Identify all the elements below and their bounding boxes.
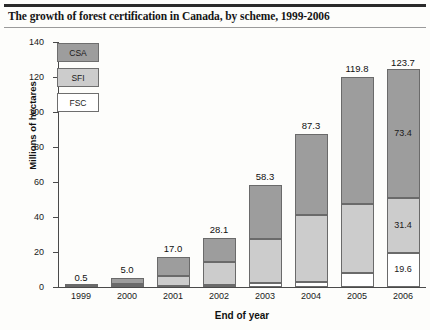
title-underline [4,27,426,28]
bar-segment-2006-sfi: 31.4 [387,198,420,253]
bar-segment-2000-sfi [111,284,144,286]
bar-segment-2002-fsc [203,285,236,287]
bar-segment-value: 19.6 [394,265,412,274]
chart-figure: The growth of forest certification in Ca… [0,0,430,330]
x-axis-tick-label-2000: 2000 [104,291,150,301]
x-axis-tick-label-2003: 2003 [242,291,288,301]
chart-title: The growth of forest certification in Ca… [8,10,424,22]
bar-segment-2002-csa [203,238,236,262]
bar-segment-value: 73.4 [394,129,412,138]
bar-segment-1999-csa [65,284,98,286]
bar-total-label-2006: 123.7 [391,57,415,68]
bar-segment-2004-fsc [295,282,328,287]
bar-segment-2005-csa [341,77,374,204]
x-axis-tick-label-2005: 2005 [334,291,380,301]
bar-segment-2005-fsc [341,273,374,287]
x-axis-tick-label-2002: 2002 [196,291,242,301]
bar-2003: 58.3 [249,185,282,287]
legend-item-sfi: SFI [57,68,99,87]
bar-segment-2001-csa [157,257,190,276]
x-axis-tick-label-2001: 2001 [150,291,196,301]
bar-total-label-2000: 5.0 [120,264,133,275]
bar-segment-2003-sfi [249,239,282,284]
bar-segment-2004-sfi [295,215,328,282]
x-axis-label: End of year [58,310,426,321]
bar-2005: 119.8 [341,77,374,287]
bar-segment-2005-sfi [341,204,374,273]
x-axis-line [58,287,426,288]
bar-series-area: 0.55.017.028.158.387.3119.819.631.473.41… [58,42,426,287]
bar-total-label-2002: 28.1 [210,224,229,235]
bar-segment-2001-sfi [157,276,190,286]
bar-2001: 17.0 [157,257,190,287]
bar-total-label-2005: 119.8 [345,63,368,74]
bar-total-label-2001: 17.0 [164,243,183,254]
bar-2004: 87.3 [295,134,328,287]
x-axis-tick-label-2006: 2006 [380,291,426,301]
y-axis-label: Millions of hectares [27,46,38,206]
bar-segment-2003-fsc [249,283,282,287]
bar-segment-value: 31.4 [394,221,412,230]
legend-item-fsc: FSC [57,93,99,112]
bar-total-label-1999: 0.5 [74,272,87,283]
y-axis-tick [53,287,58,288]
y-axis-tick-label: 20 [0,247,52,257]
bar-segment-2000-csa [111,278,144,284]
bar-segment-2004-csa [295,134,328,215]
bar-segment-2006-fsc: 19.6 [387,253,420,287]
bar-total-label-2004: 87.3 [302,120,321,131]
y-axis-tick-label: 0 [0,282,52,292]
bar-total-label-2003: 58.3 [256,171,275,182]
header-rule [4,4,426,7]
bar-segment-2002-sfi [203,262,236,285]
legend-item-csa: CSA [57,43,99,62]
bar-segment-2006-csa: 73.4 [387,69,420,197]
bar-1999: 0.5 [65,286,98,287]
x-axis-tick-label-1999: 1999 [58,291,104,301]
bar-2002: 28.1 [203,238,236,287]
bar-2006: 19.631.473.4123.7 [387,71,420,287]
bar-2000: 5.0 [111,278,144,287]
chart-legend: CSASFIFSC [57,43,99,118]
bar-segment-2003-csa [249,185,282,239]
y-axis-tick-label: 40 [0,212,52,222]
x-axis-tick-label-2004: 2004 [288,291,334,301]
